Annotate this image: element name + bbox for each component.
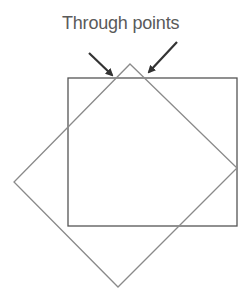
rotated-square <box>14 64 237 287</box>
axis-aligned-square <box>68 78 237 226</box>
diagram-svg <box>0 0 250 301</box>
right-arrow-icon <box>149 42 177 72</box>
diagram-canvas: Through points <box>0 0 250 301</box>
left-arrow-icon <box>89 53 112 75</box>
through-points-label: Through points <box>62 13 202 34</box>
